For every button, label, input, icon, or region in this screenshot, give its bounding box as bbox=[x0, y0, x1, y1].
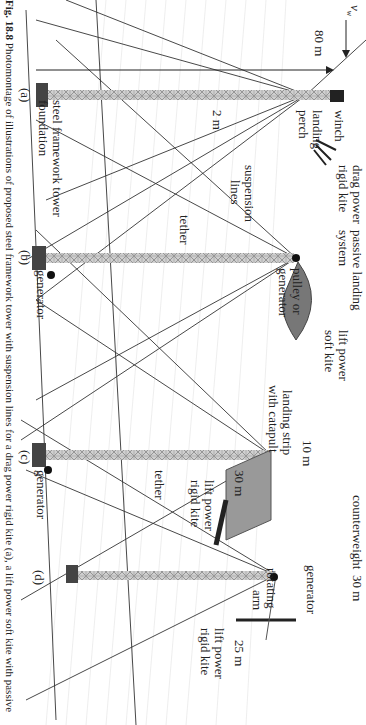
foundation-d bbox=[66, 565, 78, 583]
dim-30m-c-label: 30 m bbox=[233, 470, 246, 496]
counterweight-label: counterweight bbox=[351, 495, 364, 569]
foundation-label: foundation bbox=[37, 100, 50, 156]
wind-arrow-icon bbox=[342, 50, 350, 58]
generator-d-label: generator bbox=[305, 565, 318, 614]
tether-b-label: tether bbox=[178, 215, 191, 245]
dim-10m-label: 10 m bbox=[301, 440, 314, 466]
tower-c bbox=[41, 450, 271, 460]
winch-label: winch bbox=[333, 110, 346, 142]
tether-c-label: tether bbox=[153, 470, 166, 500]
drag-kite-label: drag power bbox=[351, 165, 364, 224]
ground-field bbox=[46, 0, 286, 725]
generator-c-label: generator bbox=[35, 470, 48, 519]
rotating-arm-label: rotating bbox=[265, 568, 278, 608]
figure-canvas: vw 80 m winch landing perch drag power r… bbox=[0, 0, 366, 725]
generator-b-label: generator bbox=[35, 270, 48, 319]
passive-landing-label-2: system bbox=[337, 230, 350, 266]
lift-rigid-c-label: lift power bbox=[203, 480, 216, 531]
lift-rigid-c-label-2: rigid kite bbox=[189, 480, 202, 527]
rotating-arm-label-2: arm bbox=[251, 590, 264, 610]
height-80m-label: 80 m bbox=[313, 30, 326, 56]
pulley-label: pulley or bbox=[291, 268, 304, 315]
lift-rigid-d-label-2: rigid kite bbox=[199, 628, 212, 675]
pulley-label-2: generator bbox=[277, 268, 290, 317]
landing-strip-label: landing strip bbox=[281, 390, 294, 455]
winch-icon bbox=[330, 90, 344, 102]
lift-rigid-d-label: lift power bbox=[213, 628, 226, 679]
panel-b-label: (b) bbox=[19, 250, 32, 265]
panel-c-label: (c) bbox=[19, 450, 32, 464]
figure-illustration bbox=[16, 0, 366, 725]
panel-a-label: (a) bbox=[19, 88, 32, 102]
rigid-kite-c-icon bbox=[216, 500, 226, 545]
landing-perch-label-2: perch bbox=[297, 110, 310, 139]
landing-perch-label: landing bbox=[311, 110, 324, 149]
steel-tower-label: steel framework tower bbox=[51, 100, 64, 217]
width-2m-label: 2 m bbox=[211, 110, 224, 130]
tower-b bbox=[44, 253, 294, 263]
lift-soft-kite-label-2: soft kite bbox=[323, 330, 336, 372]
pulley-icon bbox=[292, 254, 300, 262]
figure-caption: Fig. 18.8 Photomontage of illustrations … bbox=[4, 0, 16, 712]
suspension-lines-label-2: lines bbox=[229, 180, 242, 205]
foundation-c bbox=[32, 443, 46, 467]
tower-a bbox=[46, 90, 336, 100]
drag-kite-label-2: rigid kite bbox=[337, 165, 350, 212]
dim-25m-label: 25 m bbox=[233, 640, 246, 666]
caption-text: Photomontage of illustrations of propose… bbox=[4, 43, 16, 712]
wind-speed-label: vw bbox=[343, 5, 362, 16]
suspension-lines bbox=[21, 0, 366, 725]
caption-label: Fig. 18.8 bbox=[4, 0, 16, 40]
landing-strip-label-2: with catapult bbox=[267, 385, 280, 453]
suspension-lines-label: suspension bbox=[243, 165, 256, 222]
foundation-b bbox=[32, 246, 46, 270]
dim-30m-d-label: 30 m bbox=[351, 575, 364, 601]
tower-d bbox=[76, 571, 276, 580]
passive-landing-label: passive landing bbox=[351, 230, 364, 311]
lift-soft-kite-label: lift power bbox=[337, 330, 350, 381]
panel-d-label: (d) bbox=[33, 570, 46, 585]
